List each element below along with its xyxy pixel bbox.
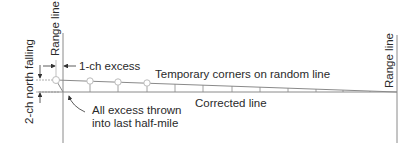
range-line-left-label: Range line (49, 1, 61, 56)
corrected-line-label: Corrected line (195, 97, 267, 109)
survey-correction-diagram: Range line Range line 2-ch north falling… (0, 0, 414, 156)
callout-arrow (69, 96, 85, 112)
range-line-right-label: Range line (383, 33, 395, 88)
excess-label: 1-ch excess (79, 60, 141, 72)
north-falling-label: 2-ch north falling (23, 39, 35, 124)
all-excess-label-line2: into last half-mile (92, 117, 178, 129)
temporary-corners-label: Temporary corners on random line (155, 68, 330, 80)
random-line (56, 80, 397, 92)
all-excess-label-line1: All excess thrown (92, 104, 181, 116)
